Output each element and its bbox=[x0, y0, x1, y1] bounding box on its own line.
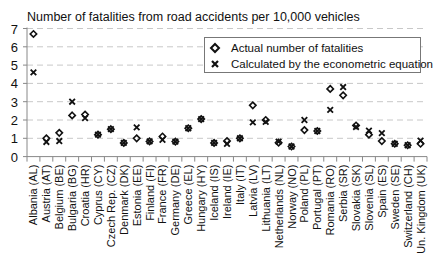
x-tick-label: Italy (IT) bbox=[234, 165, 246, 205]
x-tick-label: Switzerland (CH) bbox=[402, 165, 414, 248]
y-tick-label: 5 bbox=[11, 58, 18, 73]
x-tick-label: Estonia (EE) bbox=[131, 165, 143, 227]
x-marker-icon bbox=[379, 130, 385, 136]
x-tick-label: Cyprus (CY) bbox=[92, 165, 104, 226]
x-tick-label: Spain (ES) bbox=[376, 165, 388, 218]
x-tick-label: Portugal (PT) bbox=[311, 165, 323, 230]
y-tick-label: 1 bbox=[11, 131, 18, 146]
diamond-marker-icon bbox=[340, 92, 346, 98]
x-marker-icon bbox=[198, 116, 204, 122]
x-tick-label: Slovenia (SL) bbox=[363, 165, 375, 231]
x-marker-icon bbox=[147, 139, 153, 145]
diamond-marker-icon bbox=[327, 86, 333, 92]
diamond-marker-icon bbox=[379, 138, 385, 144]
x-marker-icon bbox=[209, 58, 221, 70]
x-tick-label: Poland (PL) bbox=[298, 165, 310, 223]
x-tick-label: Romania (RO) bbox=[324, 165, 336, 236]
x-marker-icon bbox=[211, 140, 217, 146]
x-tick-label: Czech Rep. (CZ) bbox=[105, 165, 117, 248]
x-tick-label: Ireland (IE) bbox=[221, 165, 233, 219]
x-marker-icon bbox=[405, 142, 411, 148]
y-tick-label: 4 bbox=[11, 76, 18, 91]
y-tick-label: 2 bbox=[11, 113, 18, 128]
x-tick-label: Un. Kingdom (UK) bbox=[415, 165, 427, 254]
diamond-marker-icon bbox=[30, 31, 36, 37]
legend: Actual number of fatalities Calculated b… bbox=[204, 37, 421, 73]
x-tick-label: Sweden (SE) bbox=[389, 165, 401, 230]
x-tick-label: Greece (EL) bbox=[182, 165, 194, 225]
diamond-marker-icon bbox=[133, 135, 139, 141]
x-tick-label: Lithuania (LT) bbox=[260, 165, 272, 232]
x-marker-icon bbox=[366, 128, 372, 134]
chart-title: Number of fatalities from road accidents… bbox=[27, 10, 360, 24]
y-tick-label: 0 bbox=[11, 150, 18, 165]
x-marker-icon bbox=[95, 132, 101, 138]
y-tick-label: 7 bbox=[11, 22, 18, 37]
x-tick-label: Finland (FI) bbox=[144, 165, 156, 221]
x-tick-label: Slovakia (SK) bbox=[350, 165, 362, 232]
x-marker-icon bbox=[56, 138, 62, 144]
x-marker-icon bbox=[224, 141, 230, 147]
diamond-marker-icon bbox=[69, 112, 75, 118]
x-marker-icon bbox=[327, 107, 333, 113]
x-tick-label: Latvia (LV) bbox=[247, 165, 259, 217]
legend-item-calculated: Calculated by the econometric equation bbox=[209, 56, 433, 72]
x-tick-label: Albania (AL) bbox=[27, 165, 39, 226]
x-tick-label: Belgium (BE) bbox=[53, 165, 65, 230]
x-tick-label: Denmark (DK) bbox=[118, 165, 130, 235]
x-marker-icon bbox=[134, 125, 140, 131]
x-tick-label: Serbia (SR) bbox=[337, 165, 349, 222]
diamond-marker-icon bbox=[56, 130, 62, 136]
x-axis-ticks: Albania (AL)Austria (AT)Belgium (BE)Bulg… bbox=[27, 157, 427, 254]
legend-label-actual: Actual number of fatalities bbox=[231, 42, 363, 54]
y-tick-label: 6 bbox=[11, 40, 18, 55]
diamond-marker-icon bbox=[301, 127, 307, 133]
x-marker-icon bbox=[340, 84, 346, 90]
x-marker-icon bbox=[82, 115, 88, 121]
x-marker-icon bbox=[315, 128, 321, 134]
x-tick-label: Hungary (HY) bbox=[195, 165, 207, 232]
y-axis-ticks: 01234567 bbox=[11, 22, 27, 165]
x-tick-label: Norway (NO) bbox=[286, 165, 298, 229]
diamond-marker-icon bbox=[250, 102, 256, 108]
x-tick-label: Germany (DE) bbox=[169, 165, 181, 236]
x-tick-label: Austria (AT) bbox=[40, 165, 52, 223]
x-marker-icon bbox=[289, 144, 295, 150]
x-marker-icon bbox=[108, 126, 114, 132]
x-marker-icon bbox=[44, 139, 50, 145]
x-marker-icon bbox=[185, 125, 191, 131]
legend-label-calculated: Calculated by the econometric equation bbox=[231, 58, 433, 70]
legend-item-actual: Actual number of fatalities bbox=[209, 40, 363, 56]
x-tick-label: Iceland (IS) bbox=[208, 165, 220, 221]
x-marker-icon bbox=[392, 141, 398, 147]
diamond-marker-icon bbox=[209, 42, 221, 54]
x-tick-label: Croatia (HR) bbox=[79, 165, 91, 227]
x-marker-icon bbox=[31, 70, 37, 76]
x-marker-icon bbox=[121, 140, 127, 146]
x-tick-label: Bulgaria (BG) bbox=[66, 165, 78, 232]
x-marker-icon bbox=[173, 139, 179, 145]
y-tick-label: 3 bbox=[11, 95, 18, 110]
x-tick-label: Netherlands (NL) bbox=[273, 165, 285, 249]
x-tick-label: France (FR) bbox=[156, 165, 168, 224]
